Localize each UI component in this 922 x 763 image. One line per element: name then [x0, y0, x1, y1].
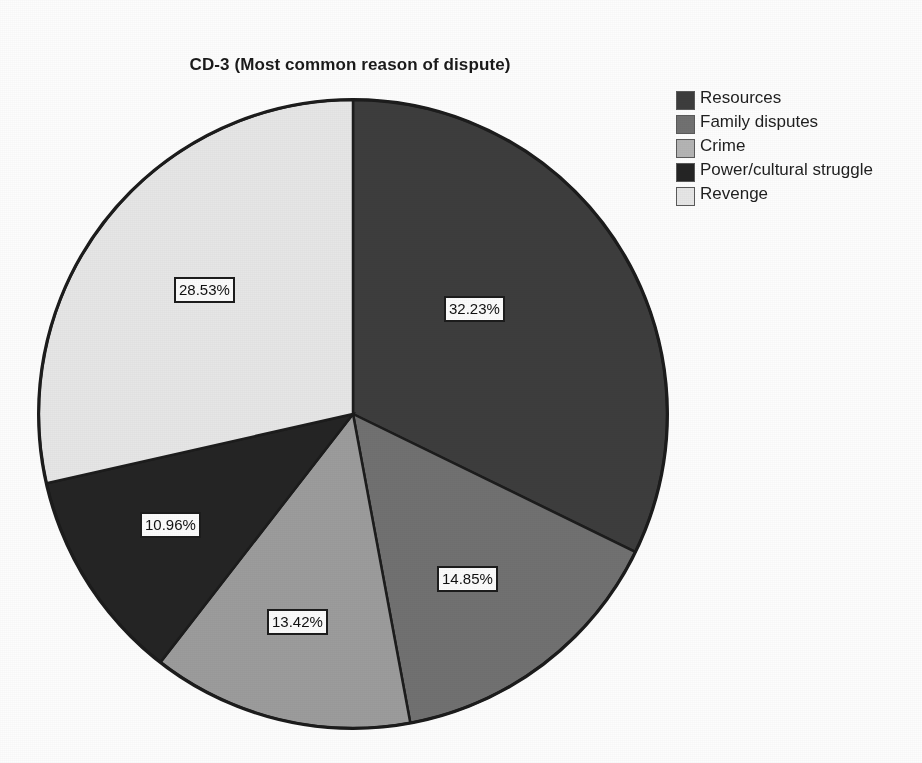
legend-swatch-power-cultural-struggle	[676, 163, 695, 182]
legend-label-resources: Resources	[700, 88, 781, 107]
legend-swatch-crime	[676, 139, 695, 158]
slice-label-crime: 13.42%	[267, 609, 328, 635]
pie-chart	[37, 98, 669, 730]
legend-item-resources[interactable]: Resources	[676, 88, 914, 110]
chart-legend: ResourcesFamily disputesCrimePower/cultu…	[676, 88, 914, 208]
legend-swatch-revenge	[676, 187, 695, 206]
legend-item-crime[interactable]: Crime	[676, 136, 914, 158]
pie-svg	[37, 98, 669, 730]
chart-title: CD-3 (Most common reason of dispute)	[0, 55, 700, 75]
slice-label-power-cultural-struggle: 10.96%	[140, 512, 201, 538]
legend-item-family-disputes[interactable]: Family disputes	[676, 112, 914, 134]
legend-item-revenge[interactable]: Revenge	[676, 184, 914, 206]
legend-item-power-cultural-struggle[interactable]: Power/cultural struggle	[676, 160, 914, 182]
pie-slice-group	[39, 100, 667, 728]
legend-label-crime: Crime	[700, 136, 745, 155]
legend-label-family-disputes: Family disputes	[700, 112, 818, 131]
legend-label-power-cultural-struggle: Power/cultural struggle	[700, 160, 873, 179]
legend-label-revenge: Revenge	[700, 184, 768, 203]
legend-swatch-family-disputes	[676, 115, 695, 134]
slice-label-family-disputes: 14.85%	[437, 566, 498, 592]
chart-page: CD-3 (Most common reason of dispute) 32.…	[0, 0, 922, 763]
slice-label-revenge: 28.53%	[174, 277, 235, 303]
legend-swatch-resources	[676, 91, 695, 110]
slice-label-resources: 32.23%	[444, 296, 505, 322]
